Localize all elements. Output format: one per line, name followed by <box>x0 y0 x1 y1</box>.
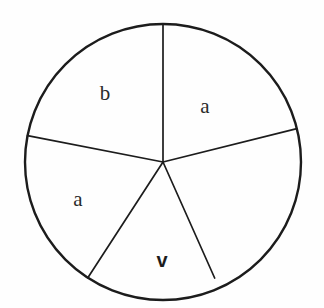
sector-label-a-right: a <box>200 94 210 118</box>
circle-sector-diagram: baav <box>0 0 324 308</box>
sector-label-v: v <box>156 249 168 271</box>
sector-label-b: b <box>100 81 111 105</box>
figure-container: baav <box>0 0 324 308</box>
sector-label-a-left: a <box>73 187 83 211</box>
